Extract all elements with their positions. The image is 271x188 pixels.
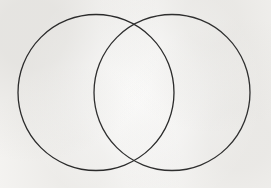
venn-diagram-svg	[0, 0, 271, 188]
venn-circle-right	[94, 15, 250, 171]
venn-diagram-canvas	[0, 0, 271, 188]
venn-circle-left	[18, 15, 174, 171]
